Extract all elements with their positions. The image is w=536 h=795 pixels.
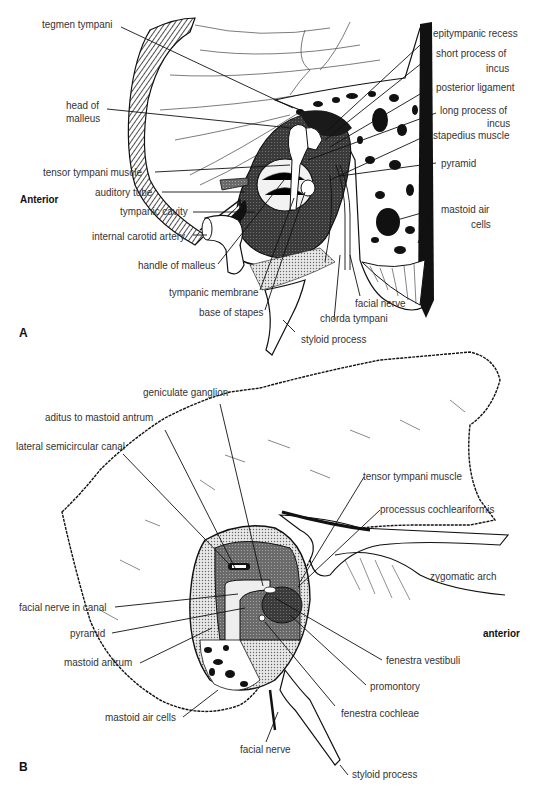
label-tensor-tympani-muscle-b: tensor tympani muscle — [363, 470, 462, 483]
label-pyramid-b: pyramid — [70, 627, 105, 640]
label-fenestra-cochleae: fenestra cochleae — [341, 707, 419, 720]
anatomy-figure: tegmen tympani head of malleus tensor ty… — [0, 0, 536, 795]
label-tegmen-tympani: tegmen tympani — [42, 18, 112, 31]
label-tympanic-cavity: tympanic cavity — [120, 205, 188, 218]
label-handle-of-malleus: handle of malleus — [138, 259, 216, 272]
label-fenestra-vestibuli: fenestra vestibuli — [386, 654, 460, 667]
label-tympanic-membrane: tympanic membrane — [169, 286, 259, 299]
orientation-anterior-b: anterior — [483, 627, 520, 640]
label-mastoid-air-cells-a-line2: cells — [471, 218, 491, 231]
label-posterior-ligament: posterior ligament — [436, 81, 515, 94]
label-zygomatic-arch: zygomatic arch — [430, 570, 497, 583]
label-long-process-of-incus-line1: long process of — [440, 104, 507, 117]
label-processus-cochleariformis: processus cochleariformis — [380, 503, 494, 516]
label-facial-nerve-in-canal: facial nerve in canal — [19, 601, 106, 614]
label-short-process-of-incus-line1: short process of — [436, 47, 506, 60]
label-head-of-malleus-line1: head of — [66, 99, 99, 112]
label-epitympanic-recess: epitympanic recess — [433, 27, 518, 40]
label-mastoid-antrum: mastoid antrum — [64, 656, 132, 669]
label-promontory: promontory — [370, 680, 420, 693]
panel-letter-a: A — [19, 326, 28, 340]
label-facial-nerve-a: facial nerve — [355, 297, 406, 310]
label-lateral-semicircular-canal: lateral semicircular canal — [16, 440, 125, 453]
label-pyramid-a: pyramid — [441, 157, 476, 170]
label-styloid-process-a: styloid process — [301, 333, 366, 346]
label-tensor-tympani-muscle: tensor tympani muscle — [43, 166, 142, 179]
panel-letter-b: B — [19, 760, 28, 774]
label-aditus-to-mastoid-antrum: aditus to mastoid antrum — [45, 411, 153, 424]
label-stapedius-muscle: stapedius muscle — [433, 129, 509, 142]
orientation-anterior-a: Anterior — [20, 193, 58, 206]
label-base-of-stapes: base of stapes — [199, 306, 263, 319]
label-head-of-malleus-line2: malleus — [66, 112, 100, 125]
label-mastoid-air-cells-b: mastoid air cells — [105, 711, 176, 724]
label-chorda-tympani: chorda tympani — [320, 312, 388, 325]
label-short-process-of-incus-line2: incus — [486, 62, 509, 75]
label-styloid-process-b: styloid process — [352, 768, 417, 781]
label-auditory-tube: auditory tube — [95, 186, 152, 199]
label-facial-nerve-b: facial nerve — [240, 743, 291, 756]
label-internal-carotid-artery: internal carotid artery — [92, 230, 185, 243]
label-mastoid-air-cells-a-line1: mastoid air — [441, 203, 489, 216]
label-geniculate-ganglion: geniculate ganglion — [143, 386, 228, 399]
